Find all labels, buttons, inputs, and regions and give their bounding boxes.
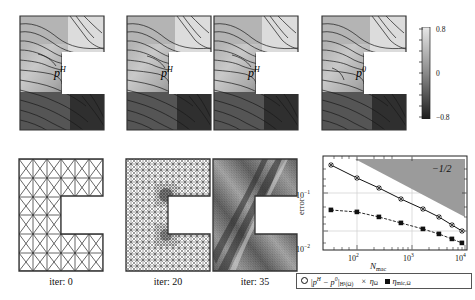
colorbar-tick-max: 0.8 <box>436 25 445 34</box>
mesh-svg-iter-35 <box>212 158 298 272</box>
mesh-caption-35: iter: 35 <box>212 276 298 287</box>
colorbar-tick-mid: 0 <box>436 69 440 78</box>
mesh-panel-iter-20 <box>125 158 211 272</box>
square-marker-icon <box>385 279 390 284</box>
legend-item-eta-omega: × ηΩ <box>360 277 378 286</box>
legend-label-eta-mic: ηmic,Ω <box>393 277 411 286</box>
contour-panel-1: pH <box>18 14 106 132</box>
mesh-svg-iter-20 <box>125 158 211 272</box>
circle-marker-icon <box>301 277 308 284</box>
contour-panel-3: pH <box>212 14 300 132</box>
legend-label-eta-omega: ηΩ <box>370 277 378 286</box>
panel-label-3: pH <box>248 66 260 79</box>
chart-ytick-1: 10−1 <box>296 189 310 200</box>
chart-xtick-2: 103 <box>403 252 414 263</box>
slope-annotation: −1/2 <box>432 163 452 174</box>
chart-ylabel: error <box>296 198 306 215</box>
mesh-caption-20: iter: 20 <box>125 276 211 287</box>
panel-label-1: pH <box>54 66 66 79</box>
panel-label-2: pH <box>161 66 173 79</box>
legend-item-eta-mic: ηmic,Ω <box>385 277 411 286</box>
mesh-svg-iter-0 <box>18 158 104 272</box>
chart-xtick-1: 102 <box>348 252 359 263</box>
chart-xtick-3: 104 <box>455 252 466 263</box>
colorbar-ticklabels: 0.8 0 −0.8 <box>432 27 466 119</box>
colorbar-tick-min: −0.8 <box>436 113 450 122</box>
cross-marker-icon: × <box>360 278 367 285</box>
colorbar-gradient <box>419 27 432 119</box>
figure-root: pH <box>0 0 475 300</box>
legend-label-h1error: |pH − p0|H¹(Ω) <box>311 276 354 287</box>
mesh-caption-0: iter: 0 <box>18 276 104 287</box>
contour-panel-2: pH <box>125 14 213 132</box>
legend-item-h1error: |pH − p0|H¹(Ω) <box>301 276 353 287</box>
chart-legend: |pH − p0|H¹(Ω) × ηΩ ηmic,Ω <box>296 273 472 289</box>
mesh-panel-iter-35 <box>212 158 298 272</box>
contour-panel-4: p0 <box>320 14 408 132</box>
panel-label-4: p0 <box>356 66 366 79</box>
colorbar: 0.8 0 −0.8 <box>419 27 469 119</box>
chart-ytick-2: 10−2 <box>296 243 310 254</box>
chart-xlabel: Nmac <box>370 261 386 271</box>
mesh-panel-iter-0 <box>18 158 104 272</box>
